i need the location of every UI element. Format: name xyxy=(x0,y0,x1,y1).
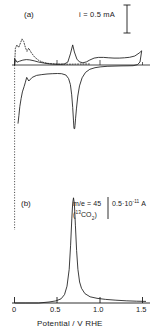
species-paren-close: ) xyxy=(94,211,96,218)
scale-b-unit: A xyxy=(141,200,146,207)
plot-canvas xyxy=(0,0,160,335)
x-axis-title: Potential / V RHE xyxy=(37,320,103,328)
panel-b-species-label: (13CO2) xyxy=(73,211,97,221)
x-tick-label-0: 0 xyxy=(12,305,16,314)
x-tick-label-2: 1.0 xyxy=(93,305,103,314)
x-tick-label-3: 1.5 xyxy=(136,305,146,314)
species-formula: CO xyxy=(81,211,92,218)
scale-b-mantissa: 0.5·10 xyxy=(112,200,132,207)
panel-b-tag: (b) xyxy=(21,200,31,208)
curve-cv-forward-sweep xyxy=(15,45,142,65)
x-tick-label-1: 0.5 xyxy=(50,305,60,314)
panel-a-scale-bar xyxy=(124,5,131,33)
scale-b-exponent: -11 xyxy=(132,199,139,204)
panel-b-mass-label: m/e = 45 xyxy=(73,200,101,207)
panel-a-tag: (a) xyxy=(24,11,34,19)
figure-root: (a) i = 0.5 mA (b) m/e = 45 (13CO2) 0.5·… xyxy=(0,0,160,335)
panel-b-scale-label: 0.5·10-11 A xyxy=(112,200,146,207)
x-axis-ticks xyxy=(15,297,143,303)
panel-a-scale-label: i = 0.5 mA xyxy=(79,11,115,19)
curve-cv-reverse-sweep xyxy=(18,51,142,129)
